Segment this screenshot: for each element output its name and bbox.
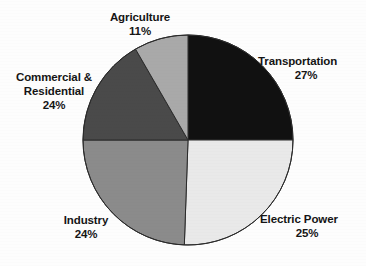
pie-label-electric-power-name: Electric Power <box>260 213 338 225</box>
pie-label-agriculture-value: 11% <box>94 24 186 38</box>
pie-label-electric-power-value: 25% <box>260 226 354 240</box>
pie-label-transportation-name: Transportation <box>258 55 337 67</box>
pie-slice-transportation[interactable] <box>188 35 293 140</box>
pie-label-electric-power: Electric Power 25% <box>260 212 362 240</box>
pie-label-agriculture-name: Agriculture <box>110 11 170 23</box>
pie-label-commercial-line2: Residential <box>6 84 102 98</box>
pie-label-commercial-residential: Commercial & Residential 24% <box>6 70 102 112</box>
pie-label-industry-name: Industry <box>64 214 109 226</box>
pie-label-industry: Industry 24% <box>44 213 128 241</box>
pie-label-commercial-value: 24% <box>6 98 102 112</box>
pie-label-industry-value: 24% <box>44 227 128 241</box>
pie-label-transportation: Transportation 27% <box>258 54 362 82</box>
pie-label-transportation-value: 27% <box>258 68 354 82</box>
pie-label-commercial-line1: Commercial & <box>16 71 92 83</box>
pie-label-agriculture: Agriculture 11% <box>94 10 186 38</box>
pie-chart: Agriculture 11% Transportation 27% Comme… <box>0 0 366 266</box>
